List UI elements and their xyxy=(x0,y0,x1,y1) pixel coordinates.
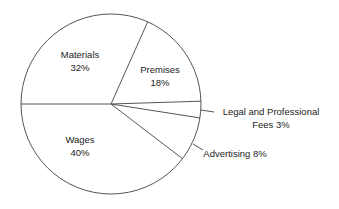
leader-line-legal-and-professional-fees xyxy=(201,110,214,112)
slice-label-line: 32% xyxy=(70,62,90,73)
slice-label-line: 40% xyxy=(70,147,90,158)
slice-label-line: Advertising 8% xyxy=(203,148,267,159)
slice-label-legal-and-professional-fees: Legal and ProfessionalFees 3% xyxy=(223,106,320,130)
slice-label-line: 18% xyxy=(150,77,170,88)
slice-label-line: Materials xyxy=(61,49,100,60)
slice-label-line: Premises xyxy=(140,64,180,75)
leader-line-advertising xyxy=(193,144,203,150)
slice-label-line: Legal and Professional xyxy=(223,106,320,117)
slice-label-line: Wages xyxy=(65,134,94,145)
slice-label-line: Fees 3% xyxy=(252,119,290,130)
pie-chart: Materials32%Premises18%Legal and Profess… xyxy=(0,0,339,209)
pie-slices xyxy=(21,14,201,194)
slice-label-advertising: Advertising 8% xyxy=(203,148,267,159)
